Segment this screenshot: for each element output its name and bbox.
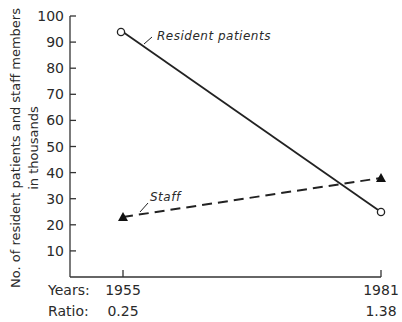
y-tick-label: 10	[46, 243, 64, 259]
years-label: Years:	[47, 282, 90, 298]
resident-leader	[144, 37, 152, 44]
y-tick-label: 50	[46, 139, 64, 155]
y-tick-label: 40	[46, 165, 64, 181]
ratio-1955: 0.25	[107, 303, 138, 319]
chart: No. of resident patients and staff membe…	[0, 0, 402, 322]
ratio-1981: 1.38	[365, 303, 396, 319]
y-tick-label: 90	[46, 34, 64, 50]
y-tick-label: 80	[46, 60, 64, 76]
y-axis-label-line2: in thousands	[26, 106, 41, 190]
filled-triangle-marker-1981	[376, 173, 386, 182]
open-circle-marker-1955	[117, 28, 124, 35]
y-tick-label: 100	[37, 8, 64, 24]
y-axis-label-line1: No. of resident patients and staff membe…	[8, 8, 23, 288]
year-1981: 1981	[363, 282, 399, 298]
resident-patients-annotation: Resident patients	[157, 29, 271, 43]
ratio-label: Ratio:	[48, 303, 89, 319]
y-tick-label: 60	[46, 112, 64, 128]
year-1955: 1955	[105, 282, 141, 298]
y-tick-label: 30	[46, 191, 64, 207]
y-tick-label: 20	[46, 217, 64, 233]
staff-annotation: Staff	[150, 190, 182, 204]
staff-leader	[140, 203, 148, 212]
y-tick-label: 70	[46, 86, 64, 102]
resident-patients-line	[123, 32, 381, 212]
open-circle-marker-1981	[377, 208, 384, 215]
